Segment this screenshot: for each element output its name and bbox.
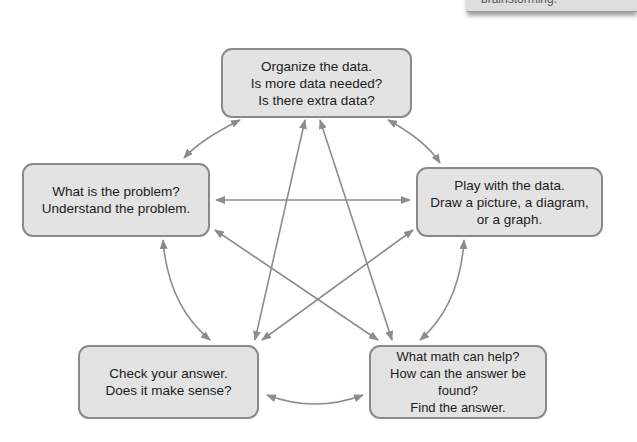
node-line: How can the answer be found? bbox=[371, 365, 545, 399]
arrow-right-bottomright bbox=[420, 240, 464, 340]
arrow-top-bottomright bbox=[320, 120, 392, 340]
node-line: What is the problem? bbox=[52, 183, 180, 200]
arrow-top-right bbox=[388, 120, 440, 163]
node-line: or a graph. bbox=[477, 211, 542, 228]
node-line: Is more data needed? bbox=[251, 75, 382, 92]
node-check-answer: Check your answer. Does it make sense? bbox=[78, 345, 259, 419]
node-what-math-helps: What math can help? How can the answer b… bbox=[369, 345, 547, 419]
node-what-is-problem: What is the problem? Understand the prob… bbox=[22, 163, 210, 237]
node-line: What math can help? bbox=[397, 348, 520, 365]
node-line: Draw a picture, a diagram, bbox=[430, 194, 588, 211]
node-line: Is there extra data? bbox=[258, 92, 374, 109]
arrow-left-bottomright bbox=[215, 230, 378, 340]
node-line: Understand the problem. bbox=[42, 200, 191, 217]
arrow-right-bottomleft bbox=[262, 230, 413, 340]
arrow-bottom bbox=[267, 395, 363, 404]
node-line: Check your answer. bbox=[109, 365, 228, 382]
node-play-with-data: Play with the data. Draw a picture, a di… bbox=[416, 167, 603, 237]
node-line: Does it make sense? bbox=[105, 382, 231, 399]
node-line: Play with the data. bbox=[454, 177, 564, 194]
node-organize-data: Organize the data. Is more data needed? … bbox=[221, 48, 412, 118]
arrow-top-left bbox=[184, 120, 240, 158]
arrow-left-bottomleft bbox=[163, 240, 210, 340]
node-line: Organize the data. bbox=[261, 58, 372, 75]
node-line: Find the answer. bbox=[410, 399, 505, 416]
arrow-top-bottomleft bbox=[255, 120, 305, 340]
